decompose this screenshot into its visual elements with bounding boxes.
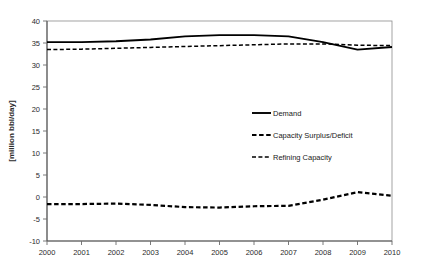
- y-tick-label: 0: [36, 193, 40, 202]
- x-tick-label: 2009: [349, 248, 366, 257]
- y-tick-label: -10: [29, 237, 40, 246]
- y-tick-label: 30: [32, 61, 40, 70]
- x-tick-label: 2003: [142, 248, 159, 257]
- x-tick-label: 2004: [177, 248, 194, 257]
- y-tick-label: -5: [33, 215, 40, 224]
- y-tick-label: 40: [32, 17, 40, 26]
- x-tick-label: 2000: [39, 248, 56, 257]
- x-tick-label: 2008: [315, 248, 332, 257]
- x-tick-label: 2010: [384, 248, 401, 257]
- y-tick-label: 35: [32, 39, 40, 48]
- y-tick-label: 15: [32, 127, 40, 136]
- y-axis-title: [million bbl/day]: [7, 100, 16, 162]
- x-tick-label: 2001: [73, 248, 90, 257]
- y-tick-label: 5: [36, 171, 40, 180]
- legend-item-label: Demand: [273, 109, 301, 118]
- x-tick-label: 2005: [211, 248, 228, 257]
- y-tick-label: 10: [32, 149, 40, 158]
- legend-item-label: Capacity Surplus/Deficit: [273, 131, 354, 140]
- x-tick-label: 2006: [246, 248, 263, 257]
- y-tick-label: 25: [32, 83, 40, 92]
- x-tick-label: 2007: [280, 248, 297, 257]
- line-chart-plot: -10-50510152025303540 200020012002200320…: [0, 0, 425, 267]
- legend-item-label: Refining Capacity: [273, 153, 332, 162]
- chart-container: -10-50510152025303540 200020012002200320…: [0, 0, 425, 267]
- y-tick-label: 20: [32, 105, 40, 114]
- chart-background: [0, 0, 425, 267]
- x-tick-label: 2002: [108, 248, 125, 257]
